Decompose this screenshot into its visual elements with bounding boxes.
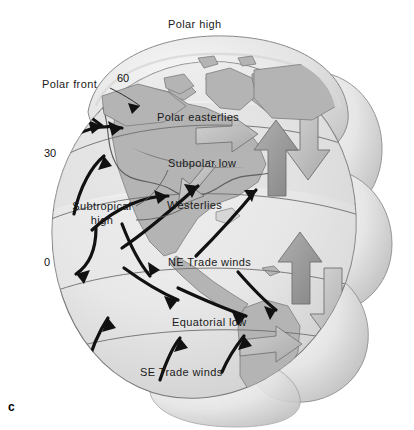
label-subpolar-low: Subpolar low	[168, 157, 236, 170]
circulation-figure: Polar high Polar front 60 30 0 Polar eas…	[0, 0, 414, 430]
label-polar-easterlies: Polar easterlies	[157, 111, 239, 124]
label-ne-trade-winds: NE Trade winds	[168, 256, 251, 269]
label-equatorial-low: Equatorial low	[172, 316, 247, 329]
latitude-tick-0: 0	[44, 256, 50, 268]
latitude-tick-60: 60	[117, 72, 129, 84]
latitude-tick-30: 30	[44, 147, 56, 159]
label-subtropical-high: Subtropical high	[64, 199, 140, 227]
label-subtropical-high-line1: Subtropical	[72, 200, 131, 212]
label-polar-front: Polar front	[42, 78, 97, 91]
label-se-trade-winds: SE Trade winds	[140, 366, 223, 379]
label-subtropical-high-line2: high	[91, 214, 113, 226]
panel-letter: c	[8, 400, 15, 414]
label-polar-high: Polar high	[168, 18, 222, 31]
label-westerlies: Westerlies	[167, 199, 222, 212]
